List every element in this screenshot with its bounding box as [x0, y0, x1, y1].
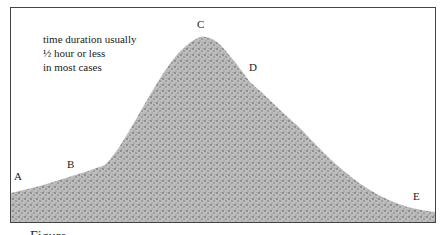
point-label-e: E — [413, 190, 420, 202]
annotation-line-3: in most cases — [43, 60, 136, 74]
annotation-line-1: time duration usually — [43, 32, 136, 46]
point-label-c: C — [197, 18, 204, 30]
point-label-d: D — [249, 61, 257, 73]
point-label-a: A — [14, 170, 22, 182]
point-label-b: B — [67, 158, 74, 170]
annotation-line-2: ½ hour or less — [43, 46, 136, 60]
duration-annotation: time duration usually ½ hour or less in … — [43, 32, 136, 74]
figure-caption: Figure ... — [30, 229, 81, 235]
